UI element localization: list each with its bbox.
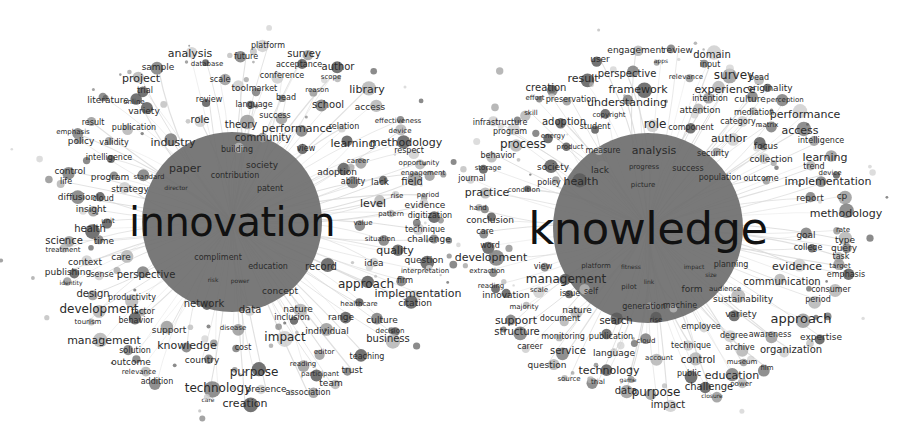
keyword-label: engagement [607,46,664,55]
keyword-label: culture [734,95,765,104]
keyword-label: intention [692,95,728,103]
keyword-label: self [584,288,598,296]
keyword-label: planning [714,261,749,269]
keyword-label: impact [684,264,705,270]
keyword-label: degree [720,332,748,340]
keyword-label: museum [727,359,757,366]
keyword-label: management [526,273,606,285]
figure-canvas: analysisplatformsurveyfuturedatabaseacce… [0,0,915,436]
keyword-label: product [557,144,584,151]
keyword-label: program [493,128,527,136]
keyword-label: question [528,361,567,370]
keyword-label: archive [725,344,754,352]
keyword-label: implementation [784,176,871,187]
keyword-label: approach [771,312,832,325]
keyword-label: document [540,315,580,323]
keyword-label: employee [681,323,721,331]
keyword-label: creation [526,83,567,93]
keyword-label: support [495,315,537,326]
keyword-label: learning [803,152,848,163]
keyword-label: role [644,118,667,130]
keyword-label: review [663,46,693,55]
keyword-label: apps [654,58,668,64]
keyword-label: behavior [480,152,515,160]
keyword-label: trial [591,379,605,386]
keyword-label: communication [743,277,820,287]
keyword-label: size [705,272,717,278]
keyword-label: majority [509,304,538,311]
keyword-label: purpose [632,386,681,398]
keyword-label: goal [796,231,815,240]
keyword-label: attention [679,106,720,115]
keyword-label: publication [589,333,633,341]
keyword-label: collection [749,155,792,164]
keyword-label: challenge [685,382,734,392]
keyword-label: author [711,133,747,144]
keyword-label: effort [525,95,544,102]
keyword-label: category [720,118,755,126]
keyword-label: framework [608,84,667,95]
keyword-label: population [699,174,742,182]
keyword-label: pilot [621,284,636,291]
keyword-label: bead [749,74,769,82]
keyword-label: storage [475,165,502,172]
keyword-label: perception [766,97,803,104]
keyword-label: technique [671,342,711,350]
keyword-label: intelligence [798,137,844,145]
keyword-label: career [517,343,543,351]
keyword-label: word [480,242,500,250]
keyword-label: society [537,163,569,172]
keyword-label: evidence [772,261,822,272]
keyword-label: performance [770,109,840,120]
keyword-label: view [534,263,552,271]
keyword-label: component [668,124,713,132]
keyword-label: closure [701,393,723,399]
keyword-label: film [760,365,773,372]
keyword-label: development [455,252,528,263]
keyword-label: reading [478,283,505,290]
keyword-label: extraction [469,268,505,275]
keyword-label: skill [524,110,538,117]
keyword-label: rise [650,317,663,324]
keyword-label: infrastructure [473,119,528,127]
keyword-label: understanding [587,97,667,108]
keyword-label: originality [748,84,793,93]
keyword-label: success [672,165,703,173]
keyword-label: account [645,355,673,362]
keyword-label: hand [469,205,487,212]
keyword-label: methodology [810,208,883,219]
keyword-label: result [567,73,598,84]
keyword-label: report [796,194,824,203]
keyword-label: expertise [800,333,842,342]
keyword-label: lack [591,166,609,175]
keyword-label: variety [725,310,756,319]
keyword-label: matrix [756,122,779,129]
keyword-label: access [781,125,818,136]
keyword-label: search [599,316,632,326]
keyword-label: progress [629,164,659,171]
keyword-label: journal [458,175,486,183]
keyword-label: emphasis [827,271,865,279]
keyword-label: user [590,55,610,64]
knowledge-network: engagementreviewuserappsdomaininputresul… [0,0,915,436]
keyword-label: measure [586,147,621,155]
keyword-label: link [644,279,655,285]
keyword-label: analysis [632,145,677,156]
keyword-label: focus [754,142,778,151]
keyword-label: policy [537,179,561,187]
keyword-label: process [500,138,546,150]
keyword-label: power [730,381,752,388]
keyword-label: form [682,285,703,294]
keyword-label: service [550,346,586,356]
keyword-label: picture [631,182,655,189]
keyword-label: issue [560,290,581,298]
keyword-label: mediation [734,109,774,117]
keyword-label: structure [494,327,539,337]
keyword-label: target [829,263,850,270]
keyword-label: language [593,349,635,358]
keyword-label: monitoring [541,333,585,341]
keyword-label: machine [663,302,697,310]
keyword-label: game [619,377,636,383]
knowledge-hub-label: knowledge [528,206,767,251]
keyword-label: security [697,150,729,158]
